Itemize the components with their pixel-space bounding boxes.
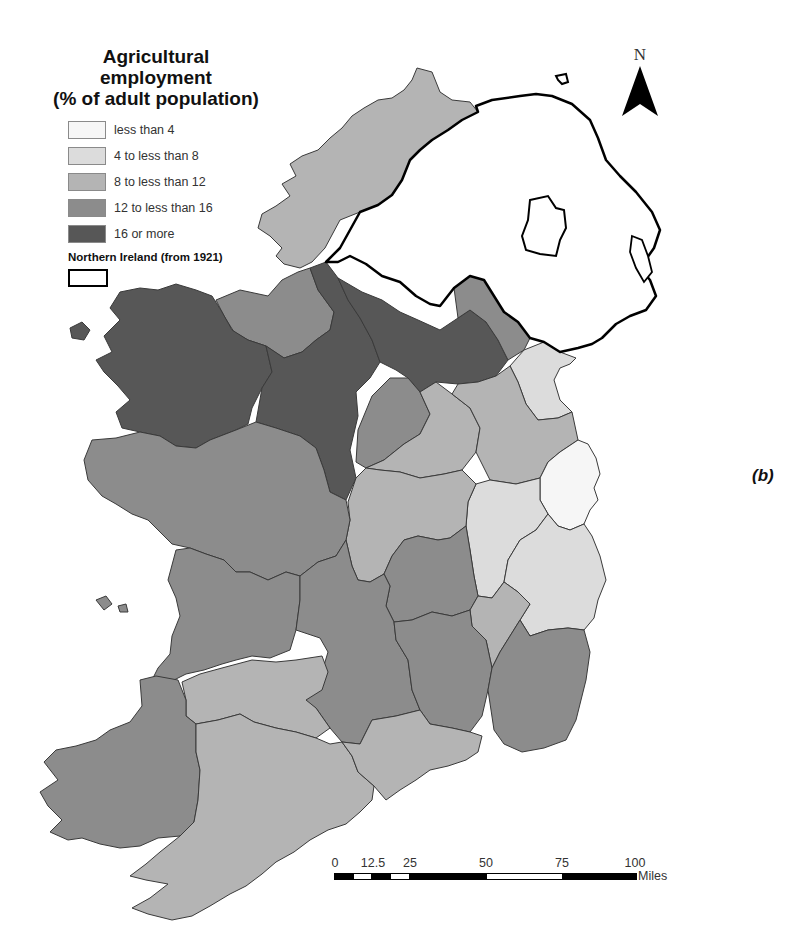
scale-tick: 25 <box>403 856 417 870</box>
region-galway <box>84 422 350 580</box>
scale-segment <box>486 873 563 880</box>
region-kerry <box>40 676 200 848</box>
scale-segment <box>409 873 487 880</box>
scale-tick: 50 <box>479 856 493 870</box>
legend-items: less than 4 4 to less than 8 8 to less t… <box>68 117 276 247</box>
panel-label: (b) <box>752 466 774 486</box>
legend-item-8to12: 8 to less than 12 <box>68 169 276 195</box>
scale-segment <box>390 873 410 880</box>
swatch-8to12 <box>68 173 106 191</box>
scale-tick: 75 <box>555 856 569 870</box>
legend-ni-label: Northern Ireland (from 1921) <box>68 251 276 263</box>
swatch-12to16 <box>68 199 106 217</box>
scale-tick: 0 <box>332 856 339 870</box>
map-legend: Agricultural employment (% of adult popu… <box>46 46 276 287</box>
scale-bar: 0 12.5 25 50 75 100 Miles <box>334 856 694 886</box>
scale-tick: 12.5 <box>361 856 385 870</box>
legend-item-12to16: 12 to less than 16 <box>68 195 276 221</box>
legend-item-4to8: 4 to less than 8 <box>68 143 276 169</box>
legend-title-line1: Agricultural employment <box>46 46 266 88</box>
swatch-4to8 <box>68 147 106 165</box>
scale-unit: Miles <box>638 869 667 883</box>
legend-title: Agricultural employment (% of adult popu… <box>46 46 266 109</box>
legend-title-line2: (% of adult population) <box>46 88 266 109</box>
legend-label: less than 4 <box>114 123 174 137</box>
legend-label: 8 to less than 12 <box>114 175 206 189</box>
scale-segment <box>562 873 637 880</box>
north-label: N <box>618 46 662 64</box>
legend-label: 4 to less than 8 <box>114 149 199 163</box>
scale-segment <box>371 873 391 880</box>
scale-segment <box>353 873 372 880</box>
legend-item-16plus: 16 or more <box>68 221 276 247</box>
swatch-lt4 <box>68 121 106 139</box>
swatch-16plus <box>68 225 106 243</box>
scale-tick: 100 <box>625 856 646 870</box>
legend-item-lt4: less than 4 <box>68 117 276 143</box>
north-arrow: N <box>618 46 662 124</box>
north-arrow-icon <box>618 64 662 120</box>
scale-segment <box>334 873 354 880</box>
legend-label: 12 to less than 16 <box>114 201 213 215</box>
legend-label: 16 or more <box>114 227 174 241</box>
swatch-northern-ireland <box>68 269 108 287</box>
